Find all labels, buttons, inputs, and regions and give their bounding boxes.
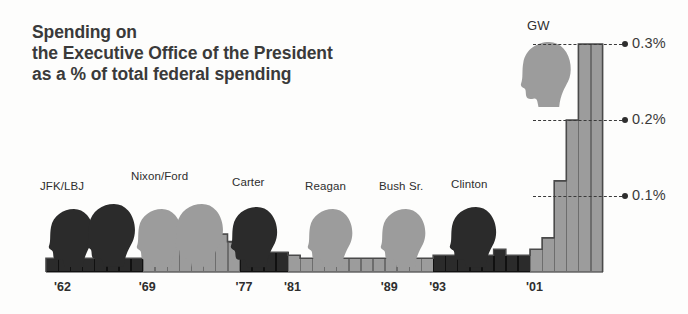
- chart-bar: [530, 249, 543, 272]
- president-label-nixon-ford: Nixon/Ford: [131, 170, 188, 182]
- president-silhouette-jfk-lbj: [86, 203, 138, 268]
- chart-bar: [506, 255, 519, 272]
- x-axis-tick-y01: '01: [526, 280, 543, 294]
- chart-bar: [361, 258, 374, 272]
- president-label-jfk-lbj: JFK/LBJ: [40, 180, 84, 192]
- chart-plot-area: JFK/LBJNixon/FordCarterReaganBush Sr.Cli…: [0, 0, 688, 314]
- x-axis-tick-y89: '89: [381, 280, 398, 294]
- gridline-label-0-2pct: 0.2%: [632, 111, 666, 127]
- x-axis-tick-y77: '77: [236, 280, 253, 294]
- infographic-chart: Spending on the Executive Office of the …: [0, 0, 688, 314]
- gridline-label-0-3pct: 0.3%: [632, 35, 666, 51]
- president-silhouette-reagan: [307, 208, 355, 268]
- chart-bar: [433, 255, 446, 272]
- gridline-0-1pct: [533, 196, 622, 197]
- chart-bar: [578, 44, 591, 272]
- chart-baseline: [46, 272, 603, 273]
- chart-bar: [542, 238, 555, 272]
- gridline-label-0-1pct: 0.1%: [632, 187, 666, 203]
- president-silhouette-gw: [520, 41, 574, 108]
- president-label-bush-sr: Bush Sr.: [379, 180, 423, 192]
- gridline-0-2pct: [533, 120, 622, 121]
- president-label-clinton: Clinton: [451, 178, 488, 190]
- president-silhouette-carter: [230, 206, 280, 268]
- president-silhouette-nixon-ford: [174, 203, 226, 268]
- gridline-dot-0-2pct: [622, 117, 628, 123]
- x-axis-tick-y93: '93: [429, 280, 446, 294]
- chart-bar: [591, 44, 604, 272]
- president-silhouette-clinton: [449, 206, 499, 268]
- gridline-dot-0-3pct: [622, 41, 628, 47]
- president-label-carter: Carter: [232, 176, 265, 188]
- president-silhouette-bush-sr: [380, 208, 428, 268]
- gridline-0-3pct: [533, 44, 622, 45]
- chart-bar: [288, 255, 301, 272]
- gridline-dot-0-1pct: [622, 193, 628, 199]
- x-axis-tick-y62: '62: [54, 280, 71, 294]
- x-axis-tick-y69: '69: [139, 280, 156, 294]
- chart-bar: [554, 181, 567, 272]
- chart-bar: [518, 255, 531, 272]
- president-label-reagan: Reagan: [305, 180, 346, 192]
- president-label-gw: GW: [527, 18, 550, 33]
- x-axis-tick-y81: '81: [284, 280, 301, 294]
